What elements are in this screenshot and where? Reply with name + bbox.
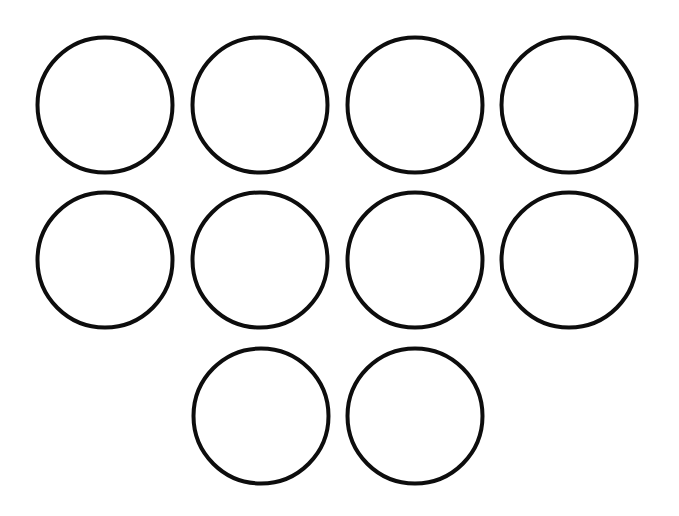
circle-diagram: [0, 0, 679, 516]
background: [0, 0, 679, 516]
